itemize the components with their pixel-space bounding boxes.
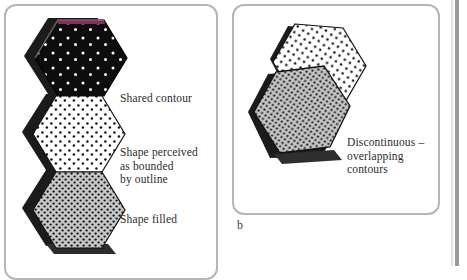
panel-a-artwork bbox=[4, 4, 218, 280]
label-shared-contour: Shared contour bbox=[120, 92, 192, 106]
panel-b-artwork bbox=[232, 4, 440, 215]
right-rail-edge bbox=[451, 0, 453, 266]
label-shape-filled: Shape filled bbox=[120, 213, 177, 227]
panel-caption-b: b bbox=[237, 218, 243, 233]
right-rail bbox=[455, 0, 459, 266]
label-shape-perceived: Shape perceived as bounded by outline bbox=[120, 146, 198, 187]
label-discontinuous-overlapping-contours: Discontinuous – overlapping contours bbox=[347, 136, 424, 177]
